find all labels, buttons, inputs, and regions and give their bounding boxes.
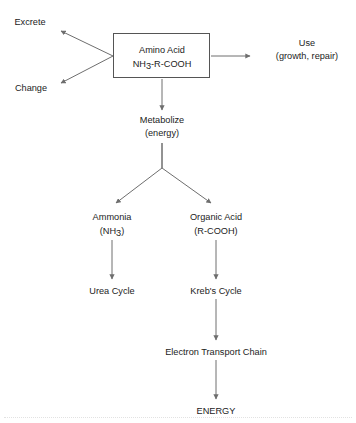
node-ammonia-label-line1: Ammonia [93,212,133,222]
ammonia-formula-prefix: (NH [100,226,116,236]
ammonia-formula-suffix: ) [121,226,124,236]
node-use-label-line1: Use [299,38,315,48]
edge-amino-acid-to-excrete [61,31,113,56]
node-change: Change [15,83,47,93]
formula-nh-prefix: NH [133,59,146,69]
formula-r-cooh-suffix: -R-COOH [151,59,191,69]
node-urea-cycle: Urea Cycle [89,286,134,296]
flowchart-canvas: Excrete Change Amino Acid NH3-R-COOH Use… [0,0,356,423]
node-organic-acid-label-line1: Organic Acid [190,212,242,222]
node-energy: ENERGY [197,406,236,416]
node-metabolize-label-line1: Metabolize [140,115,184,125]
node-krebs-cycle: Kreb's Cycle [190,286,241,296]
edge-metabolize-to-organic-acid [162,143,211,203]
node-amino-acid-label-line1: Amino Acid [139,45,185,55]
edge-amino-acid-to-change [61,56,113,83]
node-use-label-line2: (growth, repair) [276,51,338,61]
node-electron-transport-chain: Electron Transport Chain [165,347,267,357]
node-ammonia-formula: (NH3) [100,226,125,238]
node-metabolize-label-line2: (energy) [145,128,179,138]
node-amino-acid-box [114,34,210,78]
node-excrete: Excrete [14,17,45,27]
edge-metabolize-to-ammonia [116,143,162,203]
node-organic-acid-label-line2: (R-COOH) [194,226,237,236]
flowchart-diagram: Excrete Change Amino Acid NH3-R-COOH Use… [0,0,356,423]
